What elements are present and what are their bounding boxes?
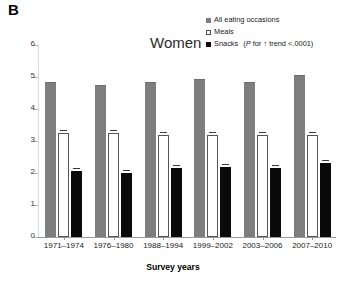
- x-axis-label: 1971–1974: [36, 241, 91, 250]
- x-tick-mark: [263, 237, 264, 240]
- x-axis-title: Survey years: [0, 262, 346, 272]
- x-axis-label: 1999–2002: [185, 241, 240, 250]
- y-tick-label: 5: [31, 71, 35, 80]
- y-tick-label: 2: [31, 167, 35, 176]
- error-bar-cap: [272, 165, 279, 166]
- filled-gray-square-icon: [206, 18, 211, 23]
- panel-label: B: [8, 2, 19, 17]
- bar-snacks: [71, 171, 82, 237]
- bar-snacks: [320, 163, 331, 237]
- bar-all-eating-occasions: [95, 85, 106, 237]
- error-bar-cap: [110, 130, 117, 131]
- open-white-square-icon: [206, 30, 211, 35]
- bar-group: 1976–1980: [95, 45, 132, 237]
- bar-meals: [307, 135, 318, 237]
- y-tick-label: 1: [31, 199, 35, 208]
- bar-snacks: [121, 173, 132, 237]
- x-axis-label: 1988–1994: [136, 241, 191, 250]
- x-axis-label: 2003–2006: [235, 241, 290, 250]
- error-bar-cap: [73, 168, 80, 169]
- bar-all-eating-occasions: [244, 82, 255, 237]
- x-tick-mark: [312, 237, 313, 240]
- x-axis-label: 1976–1980: [86, 241, 141, 250]
- bar-snacks: [270, 168, 281, 237]
- x-tick-mark: [114, 237, 115, 240]
- bar-meals: [108, 133, 119, 237]
- error-bar-cap: [259, 132, 266, 133]
- bar-meals: [158, 135, 169, 237]
- bar-meals: [207, 135, 218, 237]
- legend-label-all-eating-occasions: All eating occasions: [214, 14, 279, 26]
- bar-group: 2003–2006: [244, 45, 281, 237]
- x-tick-mark: [163, 237, 164, 240]
- bar-group: 2007–2010: [294, 45, 331, 237]
- error-bar-cap: [60, 130, 67, 131]
- y-axis-line: [38, 45, 39, 238]
- x-axis-line: [38, 237, 336, 238]
- bar-all-eating-occasions: [194, 79, 205, 237]
- bar-group: 1988–1994: [145, 45, 182, 237]
- bar-snacks: [220, 167, 231, 237]
- bar-all-eating-occasions: [145, 82, 156, 237]
- y-tick-label: 0: [31, 231, 35, 240]
- bar-meals: [257, 135, 268, 237]
- bar-group: 1999–2002: [194, 45, 231, 237]
- bar-meals: [58, 133, 69, 237]
- error-bar-cap: [123, 170, 130, 171]
- y-tick-label: 4: [31, 103, 35, 112]
- x-tick-mark: [213, 237, 214, 240]
- legend-item-all-eating-occasions: All eating occasions: [206, 14, 313, 26]
- error-bar-cap: [209, 132, 216, 133]
- y-tick-label: 3: [31, 135, 35, 144]
- x-tick-mark: [64, 237, 65, 240]
- bar-all-eating-occasions: [294, 75, 305, 237]
- bar-all-eating-occasions: [45, 82, 56, 237]
- bar-snacks: [171, 168, 182, 237]
- error-bar-cap: [322, 160, 329, 161]
- error-bar-cap: [173, 165, 180, 166]
- error-bar-cap: [222, 164, 229, 165]
- bar-group: 1971–1974: [45, 45, 82, 237]
- y-tick-label: 6: [31, 39, 35, 48]
- figure-panel-b: B Women All eating occasions Meals Snack…: [0, 0, 346, 282]
- x-axis-label: 2007–2010: [285, 241, 340, 250]
- error-bar-cap: [160, 132, 167, 133]
- legend-label-meals: Meals: [214, 26, 234, 38]
- error-bar-cap: [309, 132, 316, 133]
- plot-area: 0123456 1971–19741976–19801988–19941999–…: [38, 45, 336, 238]
- legend-item-meals: Meals: [206, 26, 313, 38]
